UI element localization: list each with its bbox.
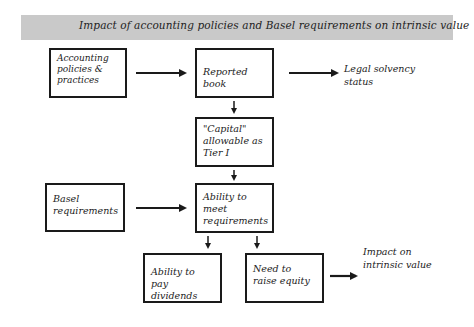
arrows-layer: [0, 0, 474, 327]
